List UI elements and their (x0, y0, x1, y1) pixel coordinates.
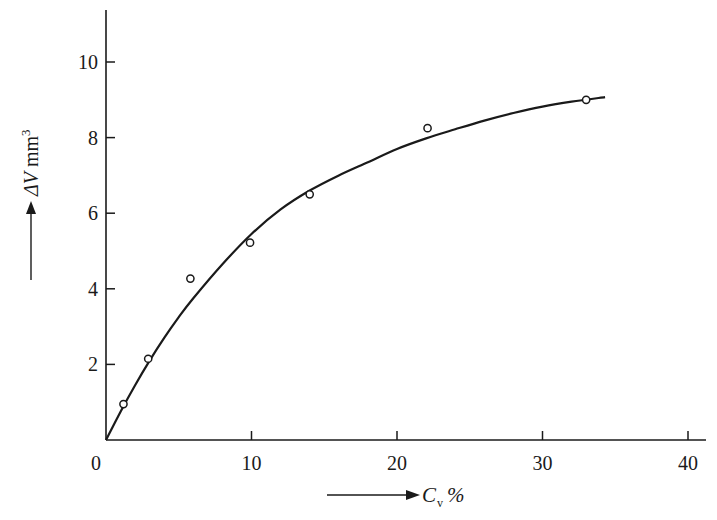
x-tick-label: 30 (533, 452, 553, 474)
svg-text:ΔVmm3: ΔVmm3 (18, 129, 42, 197)
x-axis-label: Cv% (327, 483, 465, 510)
data-point-marker (246, 239, 253, 246)
y-label-unit: mm (20, 135, 42, 167)
origin-label: 0 (91, 452, 101, 474)
chart: 246810 10203040 0 ΔVmm3 Cv% (0, 0, 717, 520)
data-point-marker (583, 96, 590, 103)
arrow-up-icon (26, 201, 36, 214)
x-ticks: 10203040 (242, 431, 699, 474)
y-axis-label: ΔVmm3 (18, 129, 42, 280)
x-label-main: C (422, 483, 437, 507)
data-points (120, 96, 590, 407)
x-label-sub: v (437, 496, 443, 510)
y-tick-label: 10 (78, 51, 98, 73)
y-tick-label: 2 (88, 353, 98, 375)
data-point-marker (306, 191, 313, 198)
arrow-right-icon (406, 490, 420, 500)
y-label-main: ΔV (20, 169, 42, 197)
axes (106, 10, 706, 440)
x-tick-label: 20 (387, 452, 407, 474)
data-point-marker (120, 400, 127, 407)
data-point-marker (187, 275, 194, 282)
data-point-marker (145, 355, 152, 362)
x-tick-label: 10 (242, 452, 262, 474)
data-point-marker (424, 125, 431, 132)
y-tick-label: 8 (88, 127, 98, 149)
y-ticks: 246810 (78, 51, 115, 375)
y-label-sup: 3 (18, 129, 33, 136)
fitted-curve (106, 97, 605, 440)
svg-text:Cv%: Cv% (422, 483, 465, 510)
x-tick-label: 40 (678, 452, 698, 474)
x-label-unit: % (447, 483, 465, 507)
y-tick-label: 4 (88, 278, 98, 300)
y-tick-label: 6 (88, 202, 98, 224)
